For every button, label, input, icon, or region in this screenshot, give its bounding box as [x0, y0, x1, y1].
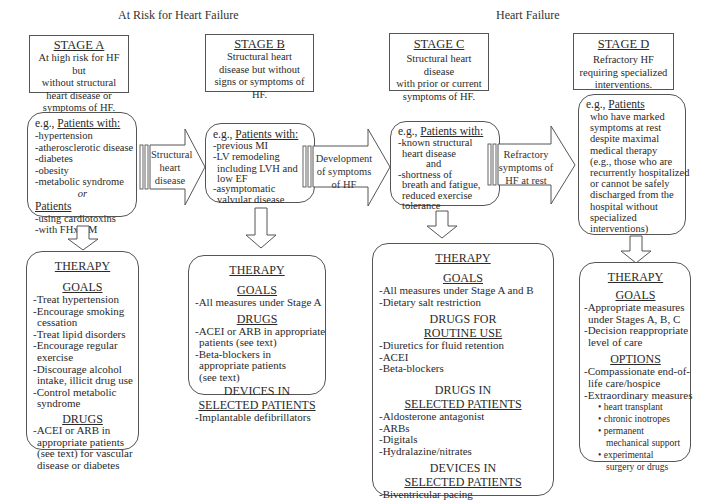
stage-a-desc-3: heart disease or: [34, 90, 124, 103]
stage-c-title: STAGE C: [394, 37, 484, 51]
patients-a-or: or: [35, 188, 130, 200]
patients-a-item: -hypertension: [35, 130, 130, 142]
stage-d-desc-2: requiring specialized: [578, 67, 669, 80]
stage-b-desc-3: signs or symptoms of: [210, 76, 309, 89]
patients-d-heading: e.g., Patients: [586, 98, 679, 111]
patients-a-heading: e.g., Patients with:: [35, 117, 130, 130]
stage-d-desc-3: interventions.: [578, 79, 669, 92]
therapy-a-goal: syndrome: [33, 398, 132, 410]
patients-d-item: or cannot be safely: [586, 178, 679, 189]
patients-with-label: Patients with:: [420, 125, 483, 137]
therapy-d-bullet-item: • experimental: [584, 449, 687, 461]
patients-b-item: valvular disease: [213, 194, 308, 206]
patients-b-item: -previous MI: [213, 141, 308, 151]
eg-label: e.g.,: [213, 128, 235, 140]
transition-1-line: heart: [151, 161, 189, 174]
patients-a-item: -diabetes: [35, 153, 130, 165]
header-at-risk: At Risk for Heart Failure: [118, 8, 239, 23]
transition-2-line: Development: [314, 152, 374, 165]
stage-a-desc-1: At high risk for HF but: [34, 52, 124, 77]
patients-d-item: recurrently hospitalized: [586, 167, 679, 178]
therapy-c-selected-drug: -Digitals: [379, 434, 547, 446]
therapy-c-title: THERAPY: [379, 250, 547, 266]
therapy-c-devices-label-2: SELECTED PATIENTS: [379, 475, 547, 489]
stage-d-box: STAGE D Refractory HF requiring speciali…: [573, 33, 674, 90]
down-arrow-d-icon: [619, 235, 653, 265]
patients-c-item: breath and fatigue,: [398, 180, 493, 191]
patients-a-item: -metabolic syndrome: [35, 176, 130, 188]
therapy-c-goal: -Dietary salt restriction: [379, 297, 547, 309]
stage-c-box: STAGE C Structural heart disease with pr…: [389, 33, 489, 91]
transition-1-line: Structural: [151, 148, 189, 161]
patients-d-item: medical therapy: [586, 145, 679, 156]
stage-c-desc-3: symptoms of HF.: [394, 91, 484, 104]
therapy-d-bullet-item: • heart transplant: [584, 401, 687, 413]
therapy-c-selected-label-1: DRUGS IN: [379, 383, 547, 397]
patients-with-label: Patients with:: [235, 128, 298, 140]
patients-label: Patients: [608, 98, 644, 110]
patients-d-item: specialized: [586, 212, 679, 223]
transition-label-3: Refractory symptoms of HF at rest: [498, 148, 554, 187]
bullet-text: permanent: [604, 426, 644, 436]
down-arrow-b-icon: [244, 207, 278, 249]
patients-d-item: interventions): [586, 223, 679, 234]
therapy-c-routine-label-2: ROUTINE USE: [379, 326, 547, 340]
therapy-a-goals-label: GOALS: [33, 280, 132, 294]
stage-b-desc-4: HF.: [210, 89, 309, 102]
therapy-a-box: THERAPY GOALS -Treat hypertension -Encou…: [26, 251, 139, 450]
therapy-c-selected-drug: -Aldosterone antagonist: [379, 411, 547, 423]
therapy-d-box: THERAPY GOALS -Appropriate measures unde…: [579, 262, 691, 462]
transition-label-2: Development of symptoms of HF: [314, 152, 374, 191]
patients-c-box: e.g., Patients with: -known structural h…: [390, 121, 500, 206]
stage-a-title: STAGE A: [34, 38, 124, 52]
therapy-c-selected-label-2: SELECTED PATIENTS: [379, 397, 547, 411]
therapy-d-title: THERAPY: [584, 269, 687, 285]
eg-label: e.g.,: [35, 117, 57, 129]
eg-label: e.g.,: [586, 98, 608, 110]
patients-d-item: (e.g., those who are: [586, 156, 679, 167]
therapy-c-box: THERAPY GOALS -All measures under Stage …: [372, 243, 554, 496]
therapy-c-routine-drug: -Beta-blockers: [379, 363, 547, 375]
stage-b-desc-1: Structural heart: [210, 51, 309, 64]
stage-a-box: STAGE A At high risk for HF but without …: [29, 35, 129, 93]
patients-a-item: -atherosclerotic disease: [35, 142, 130, 154]
therapy-a-goal: -Treat hypertension: [33, 294, 132, 306]
therapy-b-goals-label: GOALS: [195, 283, 319, 297]
therapy-c-selected-drug: -Hydralazine/nitrates: [379, 446, 547, 458]
down-arrow-a-icon: [66, 225, 100, 251]
transition-label-1: Structural heart disease: [151, 148, 189, 187]
patients-b-item: -asymptomatic: [213, 184, 308, 194]
stage-d-title: STAGE D: [578, 37, 669, 51]
patients-label: Patients: [35, 200, 71, 212]
patients-a-box: e.g., Patients with: -hypertension -athe…: [27, 112, 137, 217]
therapy-a-drug: -ACEI or ARB in: [33, 425, 132, 437]
therapy-b-devices-label-2: SELECTED PATIENTS: [195, 398, 319, 412]
eg-label: e.g.,: [398, 125, 420, 137]
transition-2-line: of HF: [314, 178, 374, 191]
therapy-d-bullet-item: • permanent: [584, 425, 687, 437]
patients-a-item: -obesity: [35, 165, 130, 177]
patients-a-item: -using cardiotoxins: [35, 213, 130, 225]
bullet-text: heart transplant: [604, 402, 663, 412]
therapy-b-device: -Implantable defibrillators: [195, 412, 319, 424]
therapy-d-bullet-cont: mechanical support: [584, 437, 687, 449]
patients-with-label: Patients with:: [57, 117, 120, 129]
therapy-c-devices-label-1: DEVICES IN: [379, 461, 547, 475]
therapy-d-option: life care/hospice: [584, 378, 687, 390]
transition-3-line: Refractory: [498, 148, 554, 161]
therapy-d-bullet-cont: surgery or drugs: [584, 461, 687, 473]
therapy-c-goals-label: GOALS: [379, 271, 547, 285]
therapy-b-goal: -All measures under Stage A: [195, 297, 319, 309]
stage-d-desc-1: Refractory HF: [578, 54, 669, 67]
therapy-b-box: THERAPY GOALS -All measures under Stage …: [188, 255, 326, 395]
patients-c-item: and: [398, 159, 493, 170]
transition-2-line: of symptoms: [314, 165, 374, 178]
therapy-a-drug: (see text) for vascular: [33, 448, 132, 460]
therapy-a-goal: intake, illicit drug use: [33, 375, 132, 387]
patients-b-box: e.g., Patients with: -previous MI -LV re…: [205, 123, 315, 203]
down-arrow-c-icon: [425, 210, 459, 240]
bullet-text: chronic inotropes: [604, 414, 670, 424]
patients-d-item: hospital without: [586, 201, 679, 212]
header-heart-failure: Heart Failure: [496, 8, 560, 23]
patients-d-item: discharged from the: [586, 189, 679, 200]
